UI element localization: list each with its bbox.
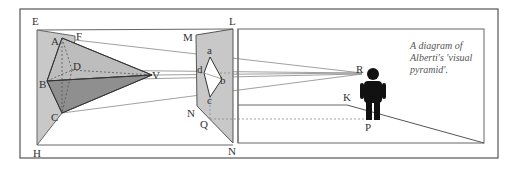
- label-b: b: [220, 74, 226, 86]
- label-K: K: [343, 91, 351, 103]
- label-N-upper: N: [187, 107, 195, 119]
- top-line-E-L: [37, 29, 233, 30]
- label-Q: Q: [200, 118, 208, 130]
- label-N-lower: N: [228, 145, 236, 157]
- label-E: E: [32, 15, 39, 27]
- alberti-visual-pyramid-diagram: E F A D B C V H M L a d b c N Q N R K P: [0, 0, 516, 173]
- label-c: c: [207, 94, 212, 106]
- label-V: V: [152, 69, 160, 81]
- caption-line-1: A diagram of: [410, 40, 500, 52]
- viewer-right-leg: [374, 100, 380, 120]
- caption-line-2: Alberti's 'visual: [410, 52, 500, 64]
- pyramid-face-top: [47, 38, 152, 81]
- label-d: d: [197, 63, 203, 75]
- viewer-torso: [364, 81, 382, 103]
- label-R: R: [356, 63, 364, 75]
- label-a: a: [207, 44, 212, 56]
- label-P: P: [365, 121, 371, 133]
- label-F: F: [76, 30, 82, 42]
- viewer-head: [367, 68, 379, 80]
- viewer-right-arm: [382, 83, 386, 99]
- diagram-caption: A diagram of Alberti's 'visual pyramid'.: [410, 40, 500, 76]
- label-D: D: [73, 60, 81, 72]
- viewer-left-leg: [366, 100, 372, 120]
- label-H: H: [33, 147, 41, 159]
- label-C: C: [51, 111, 58, 123]
- pyramid-face-bottom: [47, 75, 152, 113]
- label-M: M: [183, 31, 193, 43]
- caption-line-3: pyramid'.: [410, 64, 500, 76]
- label-B: B: [39, 78, 46, 90]
- label-A: A: [51, 35, 59, 47]
- viewer-left-arm: [360, 83, 364, 99]
- label-L: L: [229, 15, 236, 27]
